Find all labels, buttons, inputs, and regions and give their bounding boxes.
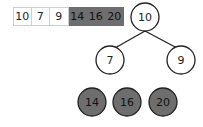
node-label: 7 xyxy=(107,54,114,67)
node-label: 14 xyxy=(85,96,99,109)
tree-node-root: 10 xyxy=(131,3,159,31)
edge-root-left xyxy=(115,31,145,48)
tree-node-left: 7 xyxy=(96,46,124,74)
node-label: 9 xyxy=(178,54,185,67)
heap-tree: 10 7 9 14 16 20 xyxy=(0,0,203,127)
tree-node-right: 9 xyxy=(167,46,195,74)
edge-root-right xyxy=(145,31,177,48)
sorted-node: 16 xyxy=(113,88,141,116)
sorted-node: 14 xyxy=(78,88,106,116)
sorted-node: 20 xyxy=(149,88,177,116)
node-label: 20 xyxy=(156,96,170,109)
node-label: 10 xyxy=(138,11,152,24)
node-label: 16 xyxy=(120,96,134,109)
